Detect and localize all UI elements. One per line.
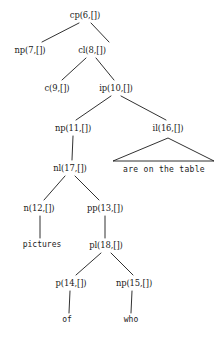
edge-cl8-c9 (62, 58, 86, 80)
node-ip10: ip(10,[]) (99, 84, 133, 92)
node-n12: n(12,[]) (24, 204, 55, 212)
node-pl18: pl(18,[]) (89, 241, 123, 249)
leaf-who: who (124, 316, 138, 324)
node-cl8: cl(8,[]) (78, 46, 106, 54)
node-cp6: cp(6,[]) (70, 11, 100, 19)
edge-np11-nl17 (72, 136, 73, 160)
node-p14: p(14,[]) (56, 279, 87, 287)
edge-nl17-pp13 (75, 176, 99, 200)
edge-np15-who (131, 291, 132, 313)
edge-cl8-ip10 (96, 58, 114, 80)
node-pp13: pp(13,[]) (87, 204, 123, 212)
edge-ip10-np11 (76, 96, 111, 120)
edge-p14-of (69, 291, 70, 313)
parse-tree-figure: cp(6,[]) np(7,[]) cl(8,[]) c(9,[]) ip(10… (0, 0, 219, 338)
node-nl17: nl(17,[]) (53, 164, 87, 172)
edge-cp6-cl8 (91, 23, 109, 42)
edge-ip10-il16 (121, 96, 166, 120)
node-np7: np(7,[]) (14, 46, 45, 54)
node-il16: il(16,[]) (153, 124, 184, 132)
node-np11: np(11,[]) (55, 124, 91, 132)
leaf-pictures: pictures (23, 241, 62, 249)
edge-nl17-n12 (44, 176, 65, 200)
node-np15: np(15,[]) (116, 279, 152, 287)
edge-cp6-np7 (42, 23, 79, 42)
leaf-of: of (62, 316, 72, 324)
node-c9: c(9,[]) (44, 84, 69, 92)
edge-pl18-np15 (111, 253, 133, 275)
phrase-are-on-the-table: are on the table (123, 166, 205, 174)
edge-pl18-p14 (76, 253, 101, 275)
phrase-triangle-icon (113, 138, 214, 161)
